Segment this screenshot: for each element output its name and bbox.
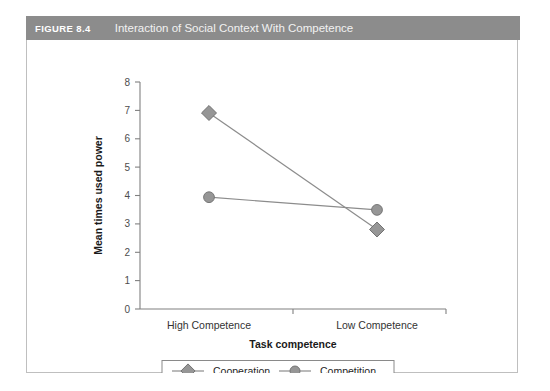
y-axis-ticks <box>135 82 140 309</box>
figure-header-band: FIGURE 8.4 Interaction of Social Context… <box>26 16 520 40</box>
y-axis-title: Mean times used power <box>92 136 104 254</box>
data-point-competition-high <box>204 192 215 203</box>
y-tick-label: 2 <box>124 247 130 258</box>
data-point-cooperation-high <box>202 106 217 121</box>
figure-title: Interaction of Social Context With Compe… <box>115 22 353 34</box>
x-category-label-high: High Competence <box>167 319 251 331</box>
legend-label-cooperation: Cooperation <box>213 365 270 373</box>
y-tick-label: 7 <box>124 105 130 116</box>
legend-item-competition[interactable]: Competition <box>279 365 376 373</box>
legend-circle-icon <box>290 366 300 373</box>
x-category-label-low: Low Competence <box>336 319 418 331</box>
y-axis-tick-labels: 8 7 6 5 4 3 2 1 0 <box>124 77 130 315</box>
chart-legend: Cooperation Competition <box>162 361 394 374</box>
y-tick-label: 1 <box>124 275 130 286</box>
data-point-competition-low <box>372 205 383 216</box>
series-line-competition <box>209 197 377 210</box>
y-tick-label: 6 <box>124 133 130 144</box>
y-tick-label: 4 <box>124 190 130 201</box>
series-line-cooperation <box>209 113 377 230</box>
y-tick-label: 5 <box>124 162 130 173</box>
x-axis-title: Task competence <box>249 338 337 350</box>
legend-item-cooperation[interactable]: Cooperation <box>172 364 270 373</box>
figure-number-label: FIGURE 8.4 <box>35 23 91 34</box>
legend-label-competition: Competition <box>320 365 376 373</box>
line-chart: 8 7 6 5 4 3 2 1 0 Mean times used power <box>27 40 519 373</box>
figure-container: FIGURE 8.4 Interaction of Social Context… <box>26 16 520 375</box>
figure-panel: 8 7 6 5 4 3 2 1 0 Mean times used power <box>26 40 518 373</box>
data-point-cooperation-low <box>370 222 385 237</box>
y-tick-label: 8 <box>124 77 130 88</box>
y-tick-label: 0 <box>124 304 130 315</box>
chart-svg: 8 7 6 5 4 3 2 1 0 Mean times used power <box>27 40 519 373</box>
y-tick-label: 3 <box>124 218 130 229</box>
